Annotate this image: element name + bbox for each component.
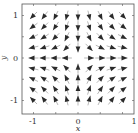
vector-field-plot: -1 0 1 x 1 0 -1 y (0, 0, 138, 133)
y-tick-label-1: 1 (13, 11, 18, 20)
x-axis-label: x (76, 124, 81, 133)
y-tick-label-0: 0 (13, 54, 18, 63)
x-tick-label-neg1: -1 (29, 117, 37, 126)
y-axis-label: y (0, 55, 8, 61)
y-tick-label-neg1: -1 (10, 96, 18, 105)
x-tick-label-1: 1 (131, 117, 136, 126)
